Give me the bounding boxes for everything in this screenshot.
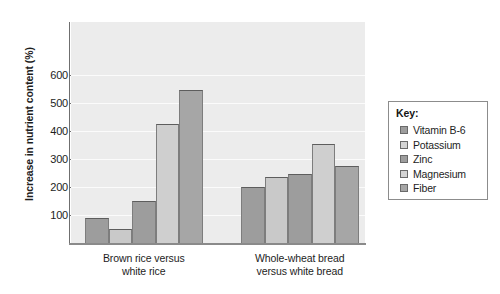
x-axis-group-label: Brown rice versuswhite rice (74, 252, 214, 278)
legend-swatch-icon (400, 141, 408, 149)
bar (156, 124, 180, 243)
gridline (71, 131, 365, 132)
y-axis-tick-label: 600 (30, 69, 68, 81)
group-label-line: white rice (74, 265, 214, 278)
y-axis-tick-label: 500 (30, 97, 68, 109)
group-label-line: Brown rice versus (74, 252, 214, 265)
legend-item: Potassium (400, 138, 487, 152)
legend-item-label: Vitamin B-6 (413, 124, 465, 136)
legend-item: Vitamin B-6 (400, 123, 487, 137)
y-axis-tick-label: 400 (30, 125, 68, 137)
bar-chart: Increase in nutrient content (%) 1002003… (0, 0, 500, 294)
gridline (71, 75, 365, 76)
bar (288, 174, 312, 243)
legend-item-label: Fiber (413, 182, 436, 194)
bar (109, 229, 133, 243)
legend: Key: Vitamin B-6PotassiumZincMagnesiumFi… (388, 101, 488, 200)
legend-swatch-icon (400, 126, 408, 134)
legend-item: Zinc (400, 152, 487, 166)
group-label-line: versus white bread (230, 265, 370, 278)
legend-item-label: Magnesium (413, 168, 466, 180)
y-axis-tick-labels: 100200300400500600 (30, 0, 68, 294)
y-axis-tick-label: 100 (30, 209, 68, 221)
plot-area (71, 22, 365, 243)
x-axis-group-label: Whole-wheat breadversus white bread (230, 252, 370, 278)
legend-swatch-icon (400, 155, 408, 163)
legend-item-label: Potassium (413, 139, 461, 151)
legend-item: Fiber (400, 181, 487, 195)
legend-item-label: Zinc (413, 153, 432, 165)
legend-item: Magnesium (400, 167, 487, 181)
bar (241, 187, 265, 243)
y-axis-tick-label: 300 (30, 153, 68, 165)
bar (312, 144, 336, 243)
legend-swatch-icon (400, 184, 408, 192)
gridline (71, 103, 365, 104)
bar (335, 166, 359, 243)
y-axis-tick-label: 200 (30, 181, 68, 193)
bar (132, 201, 156, 243)
legend-swatch-icon (400, 170, 408, 178)
x-axis-line (69, 243, 366, 245)
legend-items: Vitamin B-6PotassiumZincMagnesiumFiber (396, 123, 487, 195)
group-label-line: Whole-wheat bread (230, 252, 370, 265)
bar (179, 90, 203, 243)
legend-title: Key: (396, 107, 487, 119)
bar (265, 177, 289, 243)
bar (85, 218, 109, 243)
